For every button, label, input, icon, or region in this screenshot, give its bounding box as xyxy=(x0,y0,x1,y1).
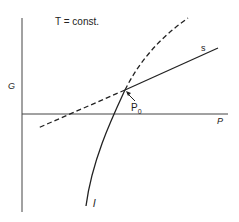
g-axis-label: G xyxy=(8,81,15,91)
intersection-label-sub: 0 xyxy=(138,108,142,115)
curve-l-label: l xyxy=(93,197,96,209)
curve-l xyxy=(86,90,125,206)
diagram-title: T = const. xyxy=(55,16,99,27)
intersection-label: P0 xyxy=(131,102,142,115)
diagram-canvas: T = const. G P s l P0 xyxy=(0,0,239,222)
p0-arrowhead-icon xyxy=(126,91,131,96)
curve-s-extension xyxy=(38,90,125,128)
p-axis-label: P xyxy=(217,116,223,126)
curve-s xyxy=(125,48,218,90)
curve-s-label: s xyxy=(201,43,206,53)
curve-l-extension xyxy=(125,18,188,90)
